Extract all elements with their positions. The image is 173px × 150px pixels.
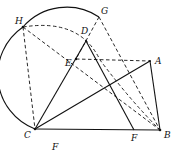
point-E bbox=[75, 58, 77, 60]
point-B bbox=[159, 129, 162, 132]
segment-CA bbox=[35, 61, 150, 129]
figure-caption: F bbox=[51, 142, 59, 150]
label-B: B bbox=[163, 130, 171, 140]
segment-CB bbox=[35, 129, 160, 130]
segment-HC bbox=[23, 27, 35, 129]
label-C: C bbox=[24, 130, 31, 140]
label-F: F bbox=[130, 133, 138, 143]
label-E: E bbox=[64, 58, 72, 68]
geometry-diagram: H G D E A C F B F bbox=[0, 0, 173, 150]
segment-AB bbox=[150, 61, 160, 130]
point-A bbox=[149, 60, 151, 62]
label-D: D bbox=[80, 26, 88, 36]
label-A: A bbox=[154, 56, 162, 66]
segment-DF bbox=[86, 41, 134, 130]
point-H bbox=[22, 26, 25, 29]
segment-EA bbox=[76, 59, 150, 61]
point-D bbox=[85, 40, 87, 42]
point-C bbox=[34, 128, 37, 131]
label-G: G bbox=[101, 6, 108, 16]
label-H: H bbox=[14, 16, 23, 26]
